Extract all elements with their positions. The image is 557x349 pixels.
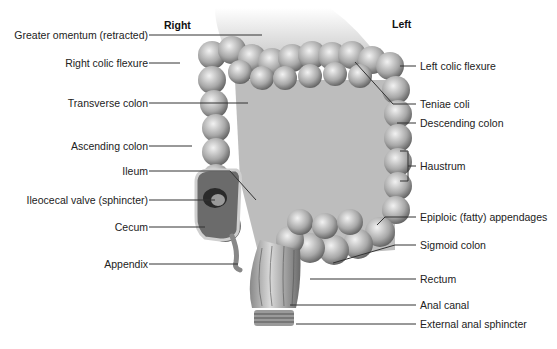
label-ileocecal-valve: Ileocecal valve (sphincter) — [27, 194, 148, 206]
orientation-left: Left — [392, 18, 411, 30]
label-cecum: Cecum — [115, 221, 148, 233]
label-right-colic-flexure: Right colic flexure — [65, 57, 148, 69]
label-ascending-colon: Ascending colon — [71, 140, 148, 152]
label-external-anal-sphincter: External anal sphincter — [420, 318, 527, 330]
label-anal-canal: Anal canal — [420, 299, 469, 311]
label-sigmoid-colon: Sigmoid colon — [420, 239, 486, 251]
label-descending-colon: Descending colon — [420, 117, 503, 129]
label-ileum: Ileum — [122, 165, 148, 177]
label-appendix: Appendix — [104, 258, 148, 270]
label-greater-omentum: Greater omentum (retracted) — [14, 29, 148, 41]
label-haustrum: Haustrum — [420, 160, 466, 172]
label-epiploic-appendages: Epiploic (fatty) appendages — [420, 211, 547, 223]
label-teniae-coli: Teniae coli — [420, 98, 470, 110]
label-transverse-colon: Transverse colon — [68, 97, 148, 109]
large-intestine-illustration — [0, 0, 557, 349]
label-left-colic-flexure: Left colic flexure — [420, 60, 496, 72]
label-rectum: Rectum — [420, 273, 456, 285]
orientation-right: Right — [164, 19, 191, 31]
